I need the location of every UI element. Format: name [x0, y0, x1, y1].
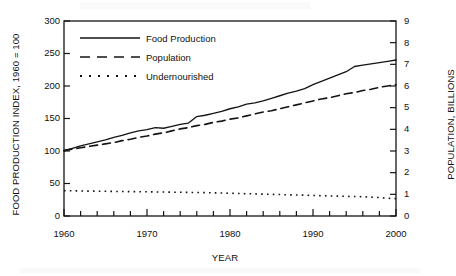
- chart-legend: [80, 38, 140, 76]
- series-line-undernourished: [64, 191, 396, 199]
- legend-label-undernourished: Undernourished: [146, 71, 214, 82]
- legend-label-population: Population: [146, 52, 191, 63]
- series-line-population: [64, 85, 396, 151]
- y-left-ticks: [64, 21, 70, 216]
- data-series-layer: [64, 60, 396, 199]
- legend-label-food-production: Food Production: [146, 33, 216, 44]
- y-right-ticks: [390, 21, 396, 216]
- series-line-food-production: [64, 60, 396, 151]
- x-ticks: [64, 209, 396, 216]
